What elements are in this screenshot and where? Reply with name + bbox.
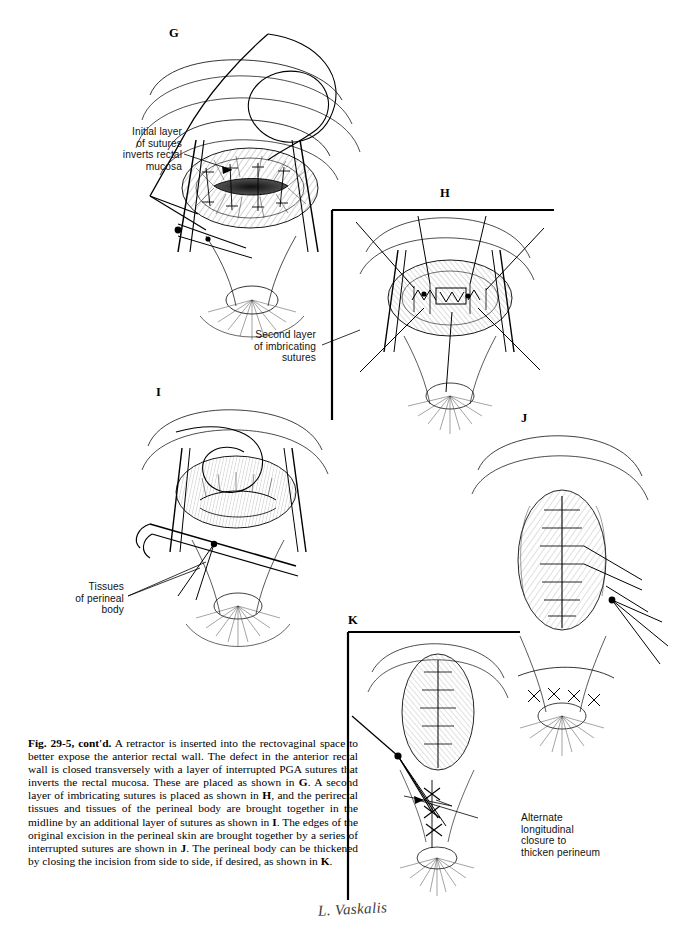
caption-ref-h: H xyxy=(262,789,271,801)
caption-ref-k: K xyxy=(321,855,330,867)
illustration-page: G H I J K Initial layer of sutures inver… xyxy=(0,0,696,941)
caption-end: . xyxy=(330,855,333,867)
panel-h-artwork xyxy=(332,210,554,434)
panel-letter-j: J xyxy=(521,411,527,426)
panel-j-artwork xyxy=(472,436,668,756)
annotation-initial-layer-of-sutures: Initial layer of sutures inverts rectal … xyxy=(76,126,182,172)
annotation-tissues-of-perineal-body: Tissues of perineal body xyxy=(28,581,124,616)
annotation-arrowheads xyxy=(222,166,424,804)
panel-letter-k: K xyxy=(348,613,358,628)
caption-ref-g: G xyxy=(299,776,308,788)
panel-letter-i: I xyxy=(156,385,161,400)
annotation-leader-lines xyxy=(128,154,478,818)
caption-figure-label: Fig. 29-5, cont'd. xyxy=(28,737,111,749)
panel-i-artwork xyxy=(136,410,328,647)
panel-letter-h: H xyxy=(440,186,450,201)
annotation-second-layer-of-imbricating-sutures: Second layer of imbricating sutures xyxy=(196,329,316,364)
panel-letter-g: G xyxy=(169,26,179,41)
panel-k-artwork xyxy=(348,632,520,900)
annotation-alternate-longitudinal-closure: Alternate longitudinal closure to thicke… xyxy=(521,812,651,858)
artist-signature: L. Vaskalis xyxy=(318,899,388,920)
panel-g-artwork xyxy=(136,34,360,340)
figure-caption: Fig. 29-5, cont'd. A retractor is insert… xyxy=(28,737,358,868)
